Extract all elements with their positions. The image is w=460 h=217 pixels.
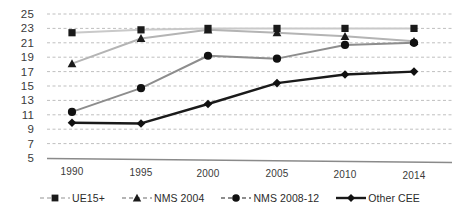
chart-legend: UE15+NMS 2004NMS 2008-12Other CEE bbox=[0, 188, 460, 208]
data-point-marker bbox=[341, 25, 348, 32]
legend-item-label: UE15+ bbox=[72, 192, 105, 204]
y-axis-tick-label: 11 bbox=[8, 109, 34, 121]
data-point-marker bbox=[204, 52, 212, 60]
x-axis-tick-label: 2005 bbox=[255, 168, 299, 180]
x-axis-tick-label: 2014 bbox=[392, 170, 436, 182]
y-axis-tick-label: 19 bbox=[8, 51, 34, 63]
series-line bbox=[72, 30, 414, 64]
data-point-marker bbox=[68, 118, 77, 127]
x-axis-tick-label: 2000 bbox=[186, 168, 230, 180]
y-axis-tick-label: 17 bbox=[8, 66, 34, 78]
legend-marker bbox=[347, 194, 355, 202]
legend-item[interactable]: UE15+ bbox=[40, 192, 105, 204]
x-axis-tick-label: 2010 bbox=[323, 169, 367, 181]
y-axis-tick-label: 23 bbox=[8, 22, 34, 34]
legend-marker bbox=[233, 194, 241, 202]
legend-item-label: NMS 2004 bbox=[154, 192, 204, 204]
series-line bbox=[72, 43, 414, 112]
x-axis-tick-label: 1990 bbox=[50, 166, 94, 178]
data-point-marker bbox=[410, 39, 418, 47]
legend-item-label: Other CEE bbox=[368, 192, 420, 204]
line-chart: 2523211917151311975 19901995200020052010… bbox=[0, 0, 460, 217]
legend-circle-icon bbox=[221, 192, 251, 204]
plot-area bbox=[0, 0, 460, 217]
y-axis-tick-label: 9 bbox=[8, 123, 34, 135]
y-axis-tick-label: 5 bbox=[8, 152, 34, 164]
data-point-marker bbox=[341, 70, 350, 79]
legend-square-icon bbox=[40, 192, 70, 204]
legend-triangle-icon bbox=[122, 192, 152, 204]
y-axis-tick-label: 7 bbox=[8, 138, 34, 150]
y-axis-tick-label: 21 bbox=[8, 37, 34, 49]
axis-baseline bbox=[47, 159, 452, 163]
legend-diamond-icon bbox=[336, 192, 366, 204]
data-point-marker bbox=[137, 84, 145, 92]
legend-item[interactable]: NMS 2008-12 bbox=[221, 192, 319, 204]
legend-item[interactable]: Other CEE bbox=[336, 192, 420, 204]
data-point-marker bbox=[204, 100, 213, 109]
x-axis-tick-label: 1995 bbox=[119, 167, 163, 179]
legend-marker bbox=[52, 195, 59, 202]
y-axis-tick-label: 25 bbox=[8, 8, 34, 20]
data-point-marker bbox=[68, 29, 75, 36]
data-point-marker bbox=[137, 26, 144, 33]
y-axis-tick-label: 13 bbox=[8, 94, 34, 106]
data-point-marker bbox=[410, 67, 419, 76]
series-line bbox=[72, 72, 414, 124]
x-axis-line bbox=[47, 159, 452, 163]
data-point-marker bbox=[137, 119, 146, 128]
legend-item[interactable]: NMS 2004 bbox=[122, 192, 204, 204]
series-markers bbox=[68, 25, 419, 128]
data-point-marker bbox=[68, 108, 76, 116]
legend-item-label: NMS 2008-12 bbox=[253, 192, 319, 204]
data-point-marker bbox=[410, 25, 417, 32]
data-point-marker bbox=[273, 55, 281, 63]
y-axis-tick-label: 15 bbox=[8, 80, 34, 92]
data-point-marker bbox=[341, 41, 349, 49]
